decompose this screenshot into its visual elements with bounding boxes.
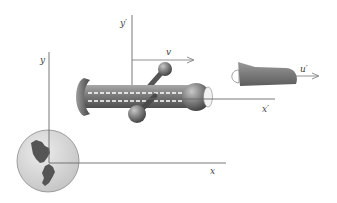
label-y: y xyxy=(40,55,45,65)
lower-sphere xyxy=(128,105,146,123)
planet xyxy=(17,130,79,192)
diagram-canvas xyxy=(0,0,337,203)
front-window xyxy=(204,87,213,107)
main-tube xyxy=(82,85,192,108)
label-u-prime: u′ xyxy=(300,64,308,74)
label-x-prime: x′ xyxy=(262,104,269,114)
projectile-body xyxy=(238,62,297,86)
label-x: x xyxy=(210,166,215,176)
label-v: v xyxy=(166,47,171,57)
upper-sphere xyxy=(158,62,172,76)
spaceship xyxy=(76,62,212,123)
label-y-prime: y′ xyxy=(120,18,127,28)
velocity-arrow-v xyxy=(132,57,194,63)
relativity-diagram: y′ y v u′ x′ x xyxy=(0,0,337,203)
projectile-tail xyxy=(232,70,239,83)
